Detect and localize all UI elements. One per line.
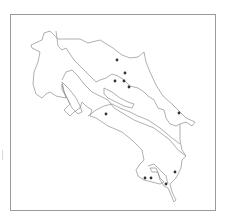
location-point <box>124 72 127 75</box>
location-point <box>116 59 119 62</box>
province-boundary <box>88 104 180 144</box>
gulf-outline <box>148 164 168 184</box>
location-point <box>105 113 108 116</box>
location-point <box>144 177 147 180</box>
location-point <box>114 80 117 83</box>
country-outline <box>31 31 195 202</box>
costa-rica-map <box>0 0 226 224</box>
location-point <box>174 171 177 174</box>
location-point <box>128 86 131 89</box>
location-point <box>178 112 181 115</box>
location-point <box>165 183 168 186</box>
location-point <box>150 177 153 180</box>
location-point <box>123 80 126 83</box>
